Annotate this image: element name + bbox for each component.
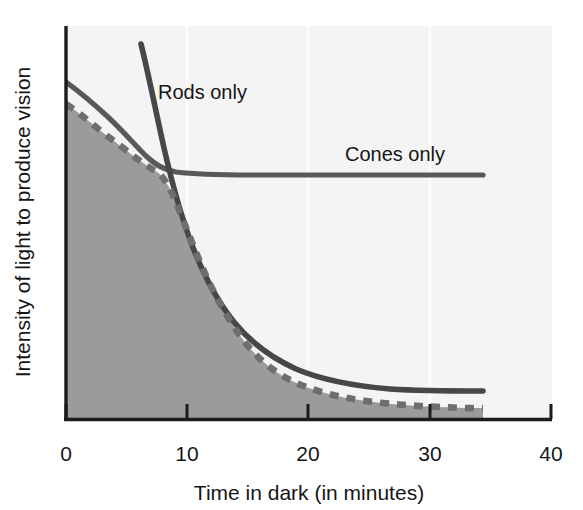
x-tick-label-20: 20: [296, 442, 319, 465]
rods-only-label: Rods only: [158, 81, 247, 103]
chart-canvas: 0 10 20 30 40 Time in dark (in minutes) …: [0, 0, 583, 510]
y-axis-title: Intensity of light to produce vision: [11, 67, 34, 378]
x-axis-title: Time in dark (in minutes): [194, 481, 424, 504]
x-tick-label-0: 0: [60, 442, 72, 465]
x-tick-label-40: 40: [539, 442, 562, 465]
x-tick-label-10: 10: [175, 442, 198, 465]
cones-only-label: Cones only: [345, 143, 445, 165]
dark-adaptation-curve-figure: 0 10 20 30 40 Time in dark (in minutes) …: [0, 0, 583, 510]
x-tick-label-30: 30: [418, 442, 441, 465]
